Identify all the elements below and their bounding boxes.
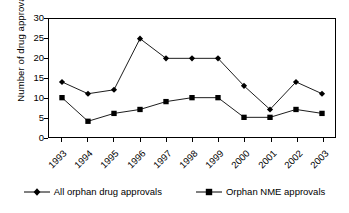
- data-point-marker: [189, 95, 194, 100]
- y-tick-label: 15: [18, 73, 44, 83]
- plot-area: [48, 18, 336, 138]
- x-tick-mark: [218, 138, 219, 142]
- data-point-marker: [111, 111, 116, 116]
- data-point-marker: [189, 55, 195, 61]
- data-point-marker: [59, 95, 64, 100]
- data-point-marker: [59, 79, 65, 85]
- x-tick-mark: [61, 138, 62, 142]
- x-tick-mark: [87, 138, 88, 142]
- legend-label-orphan-nme-approvals: Orphan NME approvals: [226, 186, 325, 197]
- series-line-2: [62, 98, 322, 122]
- data-point-marker: [215, 95, 220, 100]
- diamond-marker-icon: [24, 187, 50, 197]
- data-point-marker: [85, 91, 91, 97]
- x-tick-mark: [297, 138, 298, 142]
- data-point-marker: [319, 91, 325, 97]
- data-point-marker: [267, 115, 272, 120]
- data-point-marker: [85, 119, 90, 124]
- legend-item-all-orphan-drug-approvals: All orphan drug approvals: [24, 186, 162, 197]
- y-tick-mark: [44, 138, 48, 139]
- series-lines-layer: [49, 19, 335, 137]
- legend-label-all-orphan-drug-approvals: All orphan drug approvals: [54, 186, 162, 197]
- data-point-marker: [293, 107, 298, 112]
- x-tick-mark: [271, 138, 272, 142]
- data-point-marker: [163, 99, 168, 104]
- x-tick-mark: [244, 138, 245, 142]
- y-tick-label: 20: [18, 53, 44, 63]
- x-tick-mark: [166, 138, 167, 142]
- square-marker-icon: [196, 187, 222, 197]
- data-point-marker: [137, 107, 142, 112]
- chart-legend: All orphan drug approvals Orphan NME app…: [0, 186, 349, 197]
- y-tick-label: 25: [18, 33, 44, 43]
- x-tick-mark: [113, 138, 114, 142]
- data-point-marker: [111, 87, 117, 93]
- y-tick-label: 0: [18, 133, 44, 143]
- chart-figure: Number of drug approvals 051015202530 19…: [0, 0, 349, 213]
- x-tick-mark: [323, 138, 324, 142]
- data-point-marker: [319, 111, 324, 116]
- y-tick-label: 10: [18, 93, 44, 103]
- x-tick-mark: [192, 138, 193, 142]
- data-point-marker: [241, 115, 246, 120]
- legend-item-orphan-nme-approvals: Orphan NME approvals: [196, 186, 325, 197]
- y-tick-label: 5: [18, 113, 44, 123]
- x-tick-mark: [140, 138, 141, 142]
- y-tick-label: 30: [18, 13, 44, 23]
